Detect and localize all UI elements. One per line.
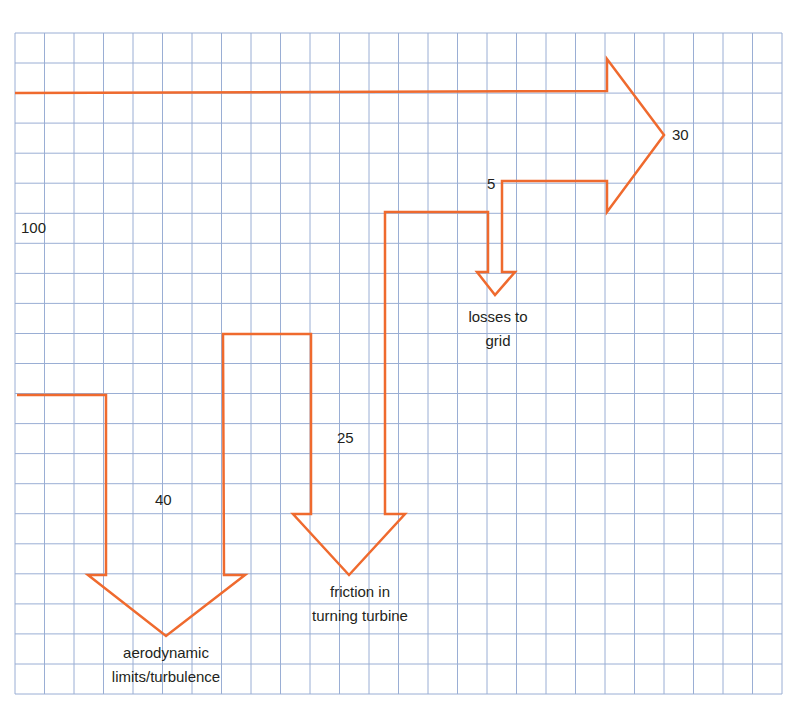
sankey-diagram <box>0 0 801 711</box>
aero-loss-text-line2: limits/turbulence <box>112 667 220 687</box>
aero-loss-value-label: 40 <box>155 490 172 510</box>
aero-loss-text-line1: aerodynamic <box>123 643 209 663</box>
output-value-label: 30 <box>672 125 689 145</box>
friction-loss-value-label: 25 <box>337 428 354 448</box>
input-value-label: 100 <box>21 218 46 238</box>
grid-loss-text-line2: grid <box>485 331 510 351</box>
friction-loss-text-line1: friction in <box>330 582 390 602</box>
graph-paper-grid <box>15 33 782 694</box>
friction-loss-text-line2: turning turbine <box>312 606 408 626</box>
grid-loss-text-line1: losses to <box>468 307 527 327</box>
grid-loss-value-label: 5 <box>487 174 495 194</box>
